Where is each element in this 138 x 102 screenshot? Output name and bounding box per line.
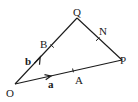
segment-OQ bbox=[15, 18, 77, 84]
label-O: O bbox=[6, 87, 14, 99]
label-B: B bbox=[40, 38, 47, 50]
label-N: N bbox=[99, 25, 107, 37]
label-P: P bbox=[120, 54, 126, 66]
tick-A bbox=[73, 69, 74, 73]
label-Q: Q bbox=[73, 6, 81, 18]
label-A: A bbox=[75, 74, 83, 86]
vector-diagram: O Q P B N A b a bbox=[0, 0, 138, 102]
label-vector-b: b bbox=[25, 55, 31, 67]
label-vector-a: a bbox=[48, 78, 54, 90]
arrow-b-icon bbox=[35, 57, 41, 65]
